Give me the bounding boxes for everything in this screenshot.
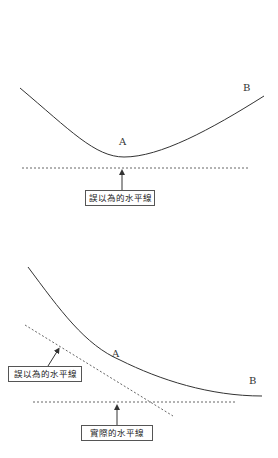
bottom-actual-horizon-box: 實際的水平線	[81, 425, 153, 441]
top-point-b: B	[243, 82, 250, 93]
top-curve	[20, 88, 264, 157]
bottom-point-b: B	[249, 375, 256, 386]
bottom-wrong-horizon-box: 誤以為的水平線	[8, 366, 82, 382]
top-point-a: A	[119, 136, 126, 147]
diagram-canvas	[0, 0, 278, 458]
bottom-point-a: A	[112, 348, 119, 359]
top-wrong-horizon-box: 誤以為的水平線	[85, 190, 155, 206]
wrong-arrow	[48, 350, 58, 366]
